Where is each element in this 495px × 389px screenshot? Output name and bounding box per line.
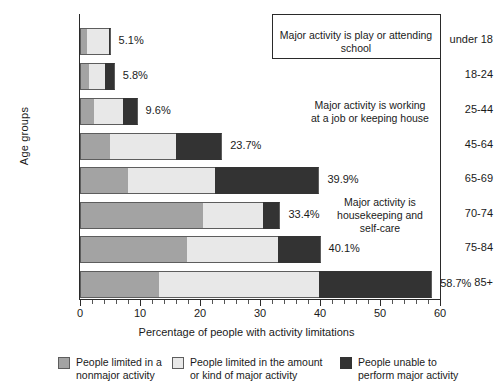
x-tick-minor bbox=[164, 300, 165, 304]
x-tick-minor bbox=[224, 300, 225, 304]
x-tick-minor bbox=[188, 300, 189, 304]
x-tick-30 bbox=[260, 300, 261, 306]
legend-swatch-icon bbox=[58, 357, 70, 369]
chart-legend: People limited in a nonmajor activity Pe… bbox=[0, 348, 493, 388]
x-tick-label-60: 60 bbox=[434, 307, 446, 319]
x-tick-60 bbox=[440, 300, 441, 306]
x-tick-minor bbox=[116, 300, 117, 304]
bar-segment-nonmajor bbox=[80, 28, 87, 55]
legend-swatch-icon bbox=[340, 357, 352, 369]
x-tick-minor bbox=[416, 300, 417, 304]
stacked-bar-18-24 bbox=[80, 63, 115, 90]
x-tick-minor bbox=[128, 300, 129, 304]
bar-segment-unable bbox=[176, 133, 222, 160]
bar-segment-amount-kind bbox=[203, 202, 263, 229]
legend-label: People limited in a nonmajor activity bbox=[76, 356, 162, 382]
bar-segment-nonmajor bbox=[80, 63, 89, 90]
bar-segment-unable bbox=[123, 98, 137, 125]
x-tick-label-40: 40 bbox=[314, 307, 326, 319]
x-tick-minor bbox=[296, 300, 297, 304]
bar-segment-unable bbox=[105, 63, 115, 90]
y-axis-title: Age groups bbox=[18, 96, 30, 176]
x-tick-minor bbox=[356, 300, 357, 304]
x-tick-40 bbox=[320, 300, 321, 306]
stacked-bar-75-84 bbox=[80, 236, 321, 263]
bar-segment-amount-kind bbox=[128, 167, 215, 194]
x-tick-50 bbox=[380, 300, 381, 306]
legend-item-unable: People unable to perform major activity bbox=[340, 356, 495, 382]
bar-segment-unable bbox=[109, 28, 110, 55]
bar-segment-amount-kind bbox=[89, 63, 105, 90]
x-tick-label-10: 10 bbox=[134, 307, 146, 319]
x-tick-minor bbox=[248, 300, 249, 304]
bar-segment-nonmajor bbox=[80, 271, 159, 298]
stacked-bar-70-74 bbox=[80, 202, 280, 229]
legend-label: People unable to perform major activity bbox=[358, 356, 458, 382]
x-tick-minor bbox=[236, 300, 237, 304]
x-tick-minor bbox=[308, 300, 309, 304]
annotation-divider-1 bbox=[272, 58, 441, 59]
bar-segment-amount-kind bbox=[110, 133, 176, 160]
x-tick-minor bbox=[344, 300, 345, 304]
legend-item-amount-kind: People limited in the amount or kind of … bbox=[172, 356, 352, 382]
legend-label: People limited in the amount or kind of … bbox=[190, 356, 323, 382]
x-tick-minor bbox=[152, 300, 153, 304]
bar-segment-unable bbox=[215, 167, 319, 194]
x-tick-minor bbox=[104, 300, 105, 304]
bar-segment-nonmajor bbox=[80, 133, 110, 160]
x-tick-minor bbox=[404, 300, 405, 304]
stacked-bar-under-18 bbox=[80, 28, 111, 55]
bar-segment-amount-kind bbox=[87, 28, 109, 55]
bar-segment-unable bbox=[319, 271, 432, 298]
bar-total-label: 23.7% bbox=[230, 139, 261, 151]
x-tick-label-20: 20 bbox=[194, 307, 206, 319]
x-tick-label-0: 0 bbox=[77, 307, 83, 319]
stacked-bar-85-plus bbox=[80, 271, 432, 298]
stacked-bar-25-44 bbox=[80, 98, 138, 125]
x-tick-label-30: 30 bbox=[254, 307, 266, 319]
plot-area: 5.1% 5.8% 9.6% 23.7% bbox=[80, 14, 440, 298]
x-axis-title: Percentage of people with activity limit… bbox=[0, 326, 493, 338]
x-tick-label-50: 50 bbox=[374, 307, 386, 319]
bar-segment-amount-kind bbox=[159, 271, 320, 298]
x-tick-minor bbox=[284, 300, 285, 304]
x-tick-0 bbox=[80, 300, 81, 306]
bar-total-label: 40.1% bbox=[329, 242, 360, 254]
annotation-housekeeping: Major activity is housekeeping and self-… bbox=[320, 196, 440, 235]
bar-segment-unable bbox=[263, 202, 280, 229]
x-tick-10 bbox=[140, 300, 141, 306]
x-tick-minor bbox=[332, 300, 333, 304]
bar-segment-amount-kind bbox=[187, 236, 278, 263]
x-tick-minor bbox=[92, 300, 93, 304]
annotation-right-border bbox=[440, 14, 441, 300]
bar-segment-unable bbox=[278, 236, 321, 263]
bar-total-label: 9.6% bbox=[146, 104, 171, 116]
annotation-divider-2 bbox=[272, 14, 441, 15]
x-tick-20 bbox=[200, 300, 201, 306]
legend-swatch-icon bbox=[172, 357, 184, 369]
bar-total-label: 33.4% bbox=[288, 208, 319, 220]
bar-total-label: 39.9% bbox=[327, 173, 358, 185]
bar-segment-nonmajor bbox=[80, 236, 187, 263]
x-tick-minor bbox=[176, 300, 177, 304]
bar-segment-nonmajor bbox=[80, 202, 203, 229]
stacked-bar-45-64 bbox=[80, 133, 222, 160]
stacked-bar-65-69 bbox=[80, 167, 319, 194]
x-tick-minor bbox=[272, 300, 273, 304]
bar-total-label: 5.1% bbox=[119, 34, 144, 46]
bar-segment-amount-kind bbox=[94, 98, 123, 125]
x-tick-minor bbox=[212, 300, 213, 304]
annotation-play-school: Major activity is play or attending scho… bbox=[276, 29, 436, 55]
annotation-working-job: Major activity is working at a job or ke… bbox=[300, 99, 440, 125]
x-tick-minor bbox=[428, 300, 429, 304]
bar-total-label: 58.7% bbox=[440, 277, 471, 289]
x-tick-minor bbox=[368, 300, 369, 304]
bar-segment-nonmajor bbox=[80, 167, 128, 194]
annotation-left-border bbox=[272, 14, 273, 59]
x-tick-minor bbox=[392, 300, 393, 304]
bar-segment-nonmajor bbox=[80, 98, 94, 125]
bar-total-label: 5.8% bbox=[123, 69, 148, 81]
